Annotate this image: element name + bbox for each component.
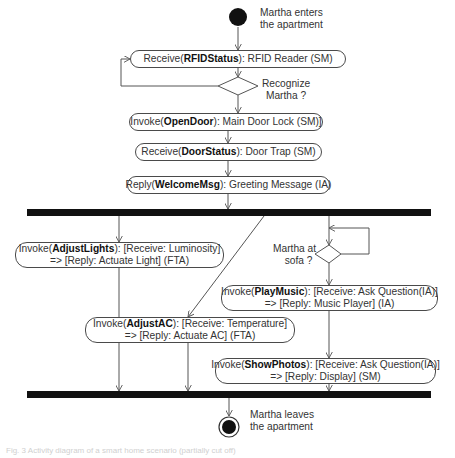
node-receive-doorstatus: Receive(DoorStatus): Door Trap (SM) xyxy=(135,143,322,161)
node-invoke-adjustac: Invoke(AdjustAC): [Receive: Temperature]… xyxy=(85,317,295,343)
node-receive-rfidstatus: Receive(RFIDStatus): RFID Reader (SM) xyxy=(130,50,346,68)
diagram-edges xyxy=(0,0,455,458)
figure-caption: Fig. 3 Activity diagram of a smart home … xyxy=(6,446,236,455)
join-bar xyxy=(27,391,431,398)
decision-label-sofa: Martha at sofa ? xyxy=(273,243,316,267)
decision-martha-at-sofa xyxy=(315,245,341,263)
end-label: Martha leaves the apartment xyxy=(250,409,314,433)
decision-label-recognize: Recognize Martha ? xyxy=(262,78,310,102)
node-reply-welcomemsg: Reply(WelcomeMsg): Greeting Message (IA) xyxy=(127,176,330,194)
start-node xyxy=(229,8,247,26)
fork-bar xyxy=(27,209,431,216)
node-invoke-showphotos: Invoke(ShowPhotos): [Receive: Ask Questi… xyxy=(215,358,436,384)
node-invoke-opendoor: Invoke(OpenDoor): Main Door Lock (SM)] xyxy=(129,113,323,131)
decision-recognize-martha xyxy=(218,77,258,95)
node-invoke-adjustlights: Invoke(AdjustLights): [Receive: Luminosi… xyxy=(15,242,224,268)
start-label: Martha enters the apartment xyxy=(260,7,323,31)
node-invoke-playmusic: Invoke(PlayMusic): [Receive: Ask Questio… xyxy=(221,285,438,311)
